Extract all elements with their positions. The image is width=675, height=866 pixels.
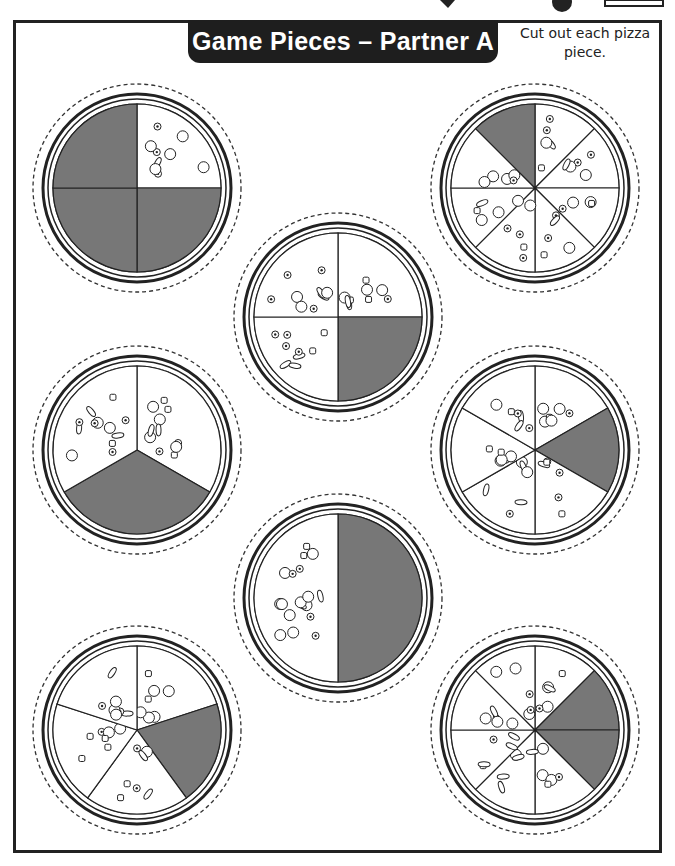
mushroom-icon <box>498 449 504 455</box>
mushroom-icon <box>171 452 177 458</box>
olive-center <box>314 635 316 637</box>
mushroom-icon <box>310 348 316 354</box>
mushroom-icon <box>474 208 480 214</box>
olive-center <box>557 496 559 498</box>
olive-center <box>577 161 579 163</box>
pepperoni-icon <box>525 200 536 211</box>
olive-center <box>320 269 322 271</box>
pepperoni-icon <box>177 131 188 142</box>
pepperoni-icon <box>276 599 287 610</box>
olive-center <box>291 573 293 575</box>
olive-center <box>286 274 288 276</box>
pizza-pieces-area <box>0 0 675 866</box>
olive-center <box>111 451 113 453</box>
pepperoni-icon <box>296 301 307 312</box>
fish-icon <box>497 774 509 780</box>
pizza-slice-shaded[interactable] <box>53 188 137 272</box>
pepperoni-icon <box>507 718 518 729</box>
pepperoni-icon <box>377 285 388 296</box>
mushroom-icon <box>521 244 527 250</box>
mushroom-icon <box>486 446 492 452</box>
mushroom-icon <box>541 252 547 258</box>
mushroom-icon <box>161 397 167 403</box>
olive-center <box>538 707 540 709</box>
mushroom-icon <box>79 755 85 761</box>
pepperoni-icon <box>284 610 295 621</box>
olive-center <box>506 227 508 229</box>
olive-center <box>101 705 103 707</box>
pepperoni-icon <box>491 399 502 410</box>
mushroom-icon <box>124 781 130 787</box>
pepperoni-icon <box>148 401 159 412</box>
mushroom-icon <box>508 409 514 415</box>
olive-center <box>78 421 80 423</box>
mushroom-icon <box>105 744 111 750</box>
pepperoni-icon <box>154 414 165 425</box>
pepperoni-icon <box>476 215 487 226</box>
mushroom-icon <box>110 394 116 400</box>
olive-center <box>568 412 570 414</box>
olive-center <box>512 179 514 181</box>
mushroom-icon <box>118 795 124 801</box>
pizza-3[interactable] <box>234 213 442 421</box>
pizza-6[interactable] <box>234 494 442 702</box>
mushroom-icon <box>165 406 171 412</box>
mushroom-icon <box>87 733 93 739</box>
olive-center <box>558 471 560 473</box>
pepperoni-icon <box>479 176 490 187</box>
olive-center <box>561 208 563 210</box>
pepperoni-icon <box>480 713 491 724</box>
pepperoni-icon <box>496 454 507 465</box>
olive-center <box>522 257 524 259</box>
olive-center <box>590 154 592 156</box>
mushroom-icon <box>538 165 544 171</box>
pepperoni-icon <box>542 701 553 712</box>
pepperoni-icon <box>303 591 314 602</box>
olive-center <box>529 709 531 711</box>
olive-center <box>492 738 494 740</box>
olive-center <box>558 776 560 778</box>
olive-center <box>274 333 276 335</box>
pepperoni-icon <box>554 403 565 414</box>
olive-center <box>517 412 519 414</box>
pepperoni-icon <box>171 441 182 452</box>
pepperoni-icon <box>568 197 579 208</box>
pepperoni-icon <box>546 415 557 426</box>
olive-center <box>156 151 158 153</box>
olive-center <box>124 419 126 421</box>
olive-center <box>387 298 389 300</box>
pepperoni-icon <box>198 162 209 173</box>
pepperoni-icon <box>150 164 161 175</box>
mushroom-icon <box>145 696 151 702</box>
pepperoni-icon <box>564 242 575 253</box>
mushroom-icon <box>366 296 372 302</box>
pepperoni-icon <box>104 422 115 433</box>
pepperoni-icon <box>513 195 524 206</box>
olive-center <box>298 351 300 353</box>
fish-icon <box>515 499 527 504</box>
mushroom-icon <box>321 330 327 336</box>
pizza-4[interactable] <box>33 346 241 554</box>
pizza-7[interactable] <box>33 626 241 834</box>
olive-center <box>136 747 138 749</box>
mushroom-icon <box>102 735 108 741</box>
pepperoni-icon <box>522 467 533 478</box>
mushroom-icon <box>301 553 307 559</box>
olive-center <box>547 237 549 239</box>
pizza-slice-shaded[interactable] <box>137 188 221 272</box>
mushroom-icon <box>109 440 115 446</box>
pizza-2[interactable] <box>431 84 639 292</box>
olive-center <box>100 731 102 733</box>
olive-center <box>309 615 311 617</box>
pizza-8[interactable] <box>431 626 639 834</box>
pizza-slice-shaded[interactable] <box>338 317 422 401</box>
pizza-5[interactable] <box>431 346 639 554</box>
pepperoni-icon <box>362 284 373 295</box>
pepperoni-icon <box>307 548 318 559</box>
pizza-1[interactable] <box>33 84 241 292</box>
fish-icon <box>526 749 538 755</box>
pizza-slice-shaded[interactable] <box>53 104 137 188</box>
olive-center <box>312 307 314 309</box>
olive-center <box>136 787 138 789</box>
olive-center <box>528 693 530 695</box>
